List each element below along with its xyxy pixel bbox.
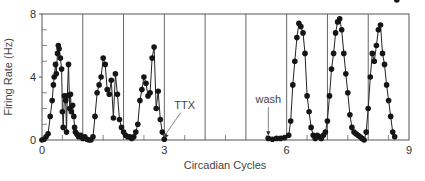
data-point	[51, 82, 57, 88]
data-point	[147, 90, 153, 96]
data-point	[155, 88, 161, 94]
data-point	[384, 82, 390, 88]
data-point	[290, 82, 296, 88]
data-point	[113, 71, 119, 77]
data-point	[337, 16, 343, 22]
data-point	[98, 74, 104, 80]
x-tick-label: 6	[284, 144, 290, 156]
data-point	[286, 133, 292, 139]
data-point	[298, 24, 304, 30]
data-point	[341, 51, 347, 57]
annotation-ttx-label: TTX	[174, 99, 195, 111]
data-series	[39, 0, 399, 143]
y-tick-label: 8	[30, 8, 36, 20]
x-tick-label: 9	[406, 144, 412, 156]
data-point	[378, 22, 384, 28]
data-point	[343, 71, 349, 77]
data-point	[302, 51, 308, 57]
data-point	[325, 118, 331, 124]
data-point	[143, 81, 149, 87]
data-point	[361, 137, 367, 143]
data-point	[160, 129, 166, 135]
data-point	[392, 134, 398, 140]
annotations: TTXwash	[164, 93, 281, 138]
data-point	[54, 71, 60, 77]
data-point	[53, 62, 59, 68]
data-point	[394, 0, 400, 3]
data-point	[382, 62, 388, 68]
data-point	[300, 30, 306, 36]
data-point	[368, 74, 374, 80]
data-point	[137, 98, 143, 104]
firing-rate-chart: 048 0369 TTXwash Circadian Cycles Firing…	[0, 0, 425, 181]
data-point	[141, 74, 147, 80]
data-point	[139, 87, 145, 93]
data-point	[158, 117, 164, 123]
data-point	[153, 106, 159, 112]
data-point	[107, 92, 113, 98]
data-point	[327, 93, 333, 99]
data-point	[68, 92, 74, 98]
data-point	[72, 125, 78, 131]
data-point	[386, 98, 392, 104]
data-point	[111, 115, 117, 121]
data-point	[292, 59, 298, 65]
data-point	[363, 129, 369, 135]
data-point	[100, 55, 106, 61]
data-point	[109, 77, 115, 83]
data-point	[66, 62, 72, 68]
data-point	[151, 44, 157, 50]
data-point	[388, 114, 394, 120]
data-point	[162, 136, 168, 142]
data-point	[117, 117, 123, 123]
data-point	[71, 114, 77, 120]
data-point	[308, 125, 314, 131]
data-point	[149, 55, 155, 61]
data-point	[70, 103, 76, 109]
arrowhead-icon	[266, 131, 270, 136]
data-point	[133, 129, 139, 135]
data-point	[59, 66, 65, 72]
data-point	[135, 122, 141, 128]
data-point	[365, 106, 371, 112]
data-point	[92, 114, 98, 120]
data-point	[374, 43, 380, 49]
data-point	[60, 125, 66, 131]
x-axis-ticks: 0369	[39, 144, 412, 156]
data-point	[372, 59, 378, 65]
data-point	[345, 90, 351, 96]
data-point	[304, 93, 310, 99]
data-point	[60, 109, 66, 115]
y-axis-label: Firing Rate (Hz)	[2, 38, 14, 116]
data-point	[329, 66, 335, 72]
data-point	[56, 46, 62, 52]
data-point	[294, 35, 300, 41]
data-point	[288, 118, 294, 124]
data-point	[331, 51, 337, 57]
data-point	[94, 90, 100, 96]
data-point	[90, 134, 96, 140]
x-axis-label: Circadian Cycles	[184, 159, 267, 171]
data-point	[49, 98, 55, 104]
data-point	[370, 51, 376, 57]
data-point	[45, 131, 51, 137]
data-point	[380, 51, 386, 57]
data-point	[58, 55, 64, 61]
x-tick-label: 0	[39, 144, 45, 156]
data-point	[339, 27, 345, 33]
series-line	[42, 19, 395, 140]
data-point	[323, 129, 329, 135]
data-point	[102, 62, 108, 68]
data-point	[64, 129, 70, 135]
data-point	[115, 92, 121, 98]
data-point	[376, 27, 382, 33]
data-point	[347, 112, 353, 118]
x-tick-label: 3	[161, 144, 167, 156]
data-point	[47, 114, 53, 120]
annotation-wash-label: wash	[254, 93, 281, 105]
y-tick-label: 0	[30, 134, 36, 146]
y-tick-label: 4	[30, 71, 36, 83]
annotation-arrow	[164, 113, 180, 137]
data-point	[333, 30, 339, 36]
data-point	[306, 109, 312, 115]
